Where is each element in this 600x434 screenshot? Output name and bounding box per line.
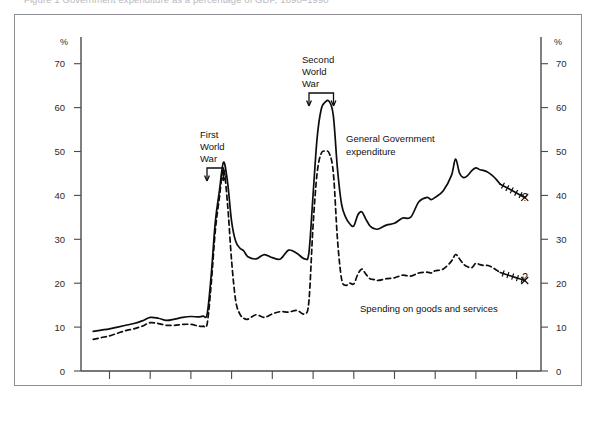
y-tick-label-right-20: 20 xyxy=(556,278,567,289)
forecast-question-mark-govt: ? xyxy=(522,192,528,203)
callout-general-government-expenditure: General Government expenditure xyxy=(346,133,435,157)
x-tick-label-1980: 1980 xyxy=(465,383,486,385)
y-tick-label-left-10: 10 xyxy=(54,322,65,333)
x-tick-label-1950: 1950 xyxy=(343,383,364,385)
callout-goods-line-1: Spending on goods and services xyxy=(360,303,498,314)
y-tick-label-left-60: 60 xyxy=(54,102,65,113)
figure-caption-strip: Figure 1 Government expenditure as a per… xyxy=(0,0,600,12)
x-tick-label-1940: 1940 xyxy=(303,383,324,385)
annotation-second-world-war-line-2: World xyxy=(302,66,327,77)
series-line-general-government-expenditure xyxy=(93,100,500,331)
x-tick-label-1930: 1930 xyxy=(262,383,283,385)
y-tick-label-right-60: 60 xyxy=(556,102,567,113)
callout-govt-line-2: expenditure xyxy=(346,146,396,157)
y-axis-right-unit: % xyxy=(554,37,562,47)
annotation-second-world-war-line-1: Second xyxy=(302,54,334,65)
x-tick-label-1910: 1910 xyxy=(180,383,201,385)
figure-caption: Figure 1 Government expenditure as a per… xyxy=(24,0,329,5)
x-tick-label-1890: 1890 xyxy=(99,383,120,385)
y-tick-label-right-70: 70 xyxy=(556,58,567,69)
y-tick-label-left-70: 70 xyxy=(54,58,65,69)
annotation-first-world-war-line-3: War xyxy=(200,153,217,164)
x-ticks xyxy=(110,371,517,379)
y-tick-labels-left: 0 10 20 30 40 50 60 70 xyxy=(54,58,65,376)
x-tick-label-1960: 1960 xyxy=(384,383,405,385)
y-tick-label-left-20: 20 xyxy=(54,278,65,289)
figure-frame: % % 0 10 20 30 40 50 60 70 xyxy=(14,14,582,386)
y-tick-label-right-40: 40 xyxy=(556,190,567,201)
y-tick-label-right-50: 50 xyxy=(556,146,567,157)
y-tick-label-right-30: 30 xyxy=(556,234,567,245)
y-tick-label-left-0: 0 xyxy=(60,366,65,377)
chart-canvas: % % 0 10 20 30 40 50 60 70 xyxy=(15,15,581,385)
annotation-first-world-war-line-2: World xyxy=(200,141,225,152)
annotation-first-world-war-line-1: First xyxy=(200,129,219,140)
y-tick-labels-right: 0 10 20 30 40 50 60 70 xyxy=(556,58,567,376)
annotation-second-world-war-line-3: War xyxy=(302,78,319,89)
y-tick-label-left-30: 30 xyxy=(54,234,65,245)
x-tick-label-1900: 1900 xyxy=(140,383,161,385)
x-tick-label-1920: 1920 xyxy=(221,383,242,385)
callout-govt-line-1: General Government xyxy=(346,133,435,144)
y-ticks-right xyxy=(541,64,548,371)
y-axis-left-unit: % xyxy=(60,37,68,47)
y-tick-label-left-50: 50 xyxy=(54,146,65,157)
x-tick-labels: 1890 1900 1910 1920 1930 1940 1950 1960 … xyxy=(99,383,527,385)
callout-spending-on-goods-and-services: Spending on goods and services xyxy=(360,303,498,314)
x-tick-label-1990: 1990 xyxy=(506,383,527,385)
y-tick-label-right-0: 0 xyxy=(556,366,561,377)
annotation-second-world-war: Second World War xyxy=(302,54,336,106)
y-ticks-left xyxy=(74,64,81,371)
x-tick-label-1970: 1970 xyxy=(425,383,446,385)
y-tick-label-right-10: 10 xyxy=(556,322,567,333)
y-tick-label-left-40: 40 xyxy=(54,190,65,201)
forecast-question-mark-goods: ? xyxy=(522,272,528,283)
